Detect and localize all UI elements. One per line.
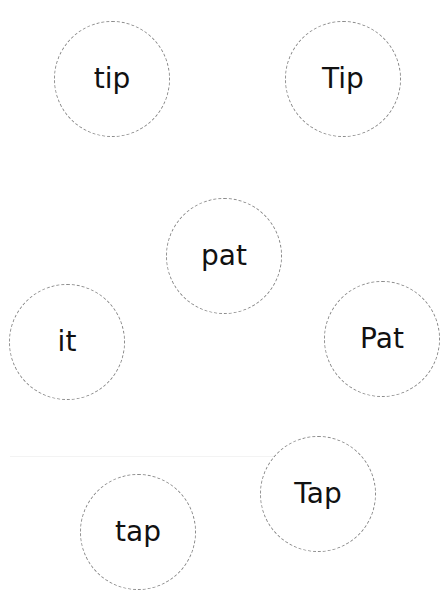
word-label: Pat (360, 325, 404, 353)
word-label: Tap (294, 480, 341, 508)
word-circle-tap[interactable]: tap (80, 474, 196, 590)
word-label: Tip (322, 65, 364, 93)
word-circle-pat[interactable]: pat (166, 198, 282, 314)
word-label: pat (201, 242, 247, 270)
word-circle-Pat[interactable]: Pat (324, 281, 440, 397)
word-circle-Tip[interactable]: Tip (285, 21, 401, 137)
faint-divider (10, 456, 275, 457)
word-circle-tip[interactable]: tip (54, 21, 170, 137)
word-label: tip (94, 65, 131, 93)
word-label: it (58, 328, 77, 356)
word-circle-it[interactable]: it (9, 284, 125, 400)
word-label: tap (115, 518, 161, 546)
word-circle-Tap[interactable]: Tap (260, 436, 376, 552)
